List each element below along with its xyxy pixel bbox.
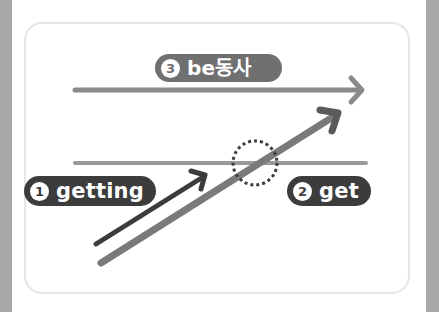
badge-be-verb: 3 be동사 <box>155 54 282 82</box>
badge-get: 2 get <box>287 176 371 206</box>
badge-label: getting <box>56 181 144 202</box>
badge-label: get <box>319 181 359 202</box>
number-2-icon: 2 <box>293 182 312 201</box>
badge-label: be동사 <box>187 58 252 78</box>
timeline-diagram <box>0 0 439 312</box>
badge-getting: 1 getting <box>24 176 156 206</box>
number-1-icon: 1 <box>30 182 49 201</box>
number-3-icon: 3 <box>161 59 180 78</box>
